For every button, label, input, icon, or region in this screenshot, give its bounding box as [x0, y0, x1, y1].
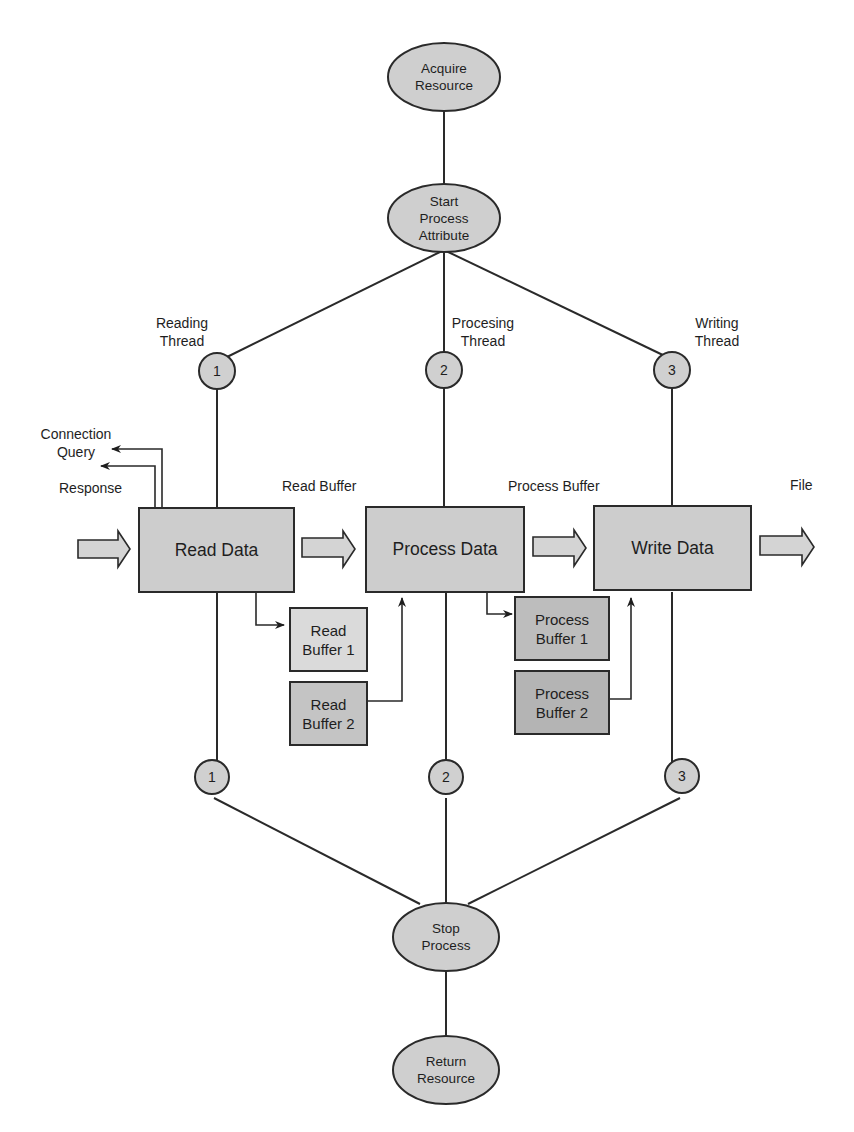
flow-arrow-process-write: [533, 530, 586, 566]
join-number-2: 2: [429, 760, 463, 794]
thread-number-2: 2: [426, 352, 462, 388]
stage-process-data-label: Process Data: [366, 507, 524, 592]
node-acquire-resource-label: AcquireResource: [388, 43, 500, 111]
label-connection-query: ConnectionQuery: [34, 425, 118, 461]
join-number-3: 3: [665, 759, 699, 793]
node-stop-process-label: StopProcess: [393, 903, 499, 971]
edge-start-thread1: [227, 250, 444, 357]
label-read-buffer: Read Buffer: [282, 477, 356, 495]
flow-arrow-read-process: [302, 531, 355, 567]
join-number-1: 1: [195, 760, 229, 794]
arrow-process-to-pbuffer1: [487, 591, 512, 614]
edge-join3-stop: [468, 798, 680, 904]
buffer-read-2-label: ReadBuffer 2: [290, 682, 367, 745]
thread-label-processing: ProcesingThread: [447, 314, 519, 350]
thread-label-writing: WritingThread: [686, 314, 748, 350]
node-start-process-label: StartProcessAttribute: [388, 184, 500, 252]
arrow-pbuffer2-to-write: [610, 598, 631, 699]
thread-number-3: 3: [654, 352, 690, 388]
buffer-read-1-label: ReadBuffer 1: [290, 608, 367, 671]
flow-arrow-in: [78, 531, 130, 567]
thread-label-reading: ReadingThread: [150, 314, 214, 350]
buffer-process-1-label: ProcessBuffer 1: [515, 597, 609, 660]
stage-read-data-label: Read Data: [139, 508, 294, 592]
label-file: File: [790, 476, 813, 494]
label-process-buffer: Process Buffer: [508, 477, 600, 495]
buffer-process-2-label: ProcessBuffer 2: [515, 671, 609, 734]
label-response: Response: [59, 479, 122, 497]
node-return-resource-label: ReturnResource: [393, 1036, 499, 1104]
arrow-read-to-buffer1: [256, 591, 284, 625]
thread-number-1: 1: [199, 353, 235, 389]
stage-write-data-label: Write Data: [594, 506, 751, 590]
flow-arrow-out-file: [760, 529, 814, 565]
edge-join1-stop: [214, 798, 420, 904]
arrow-buffer2-to-process: [368, 598, 402, 701]
